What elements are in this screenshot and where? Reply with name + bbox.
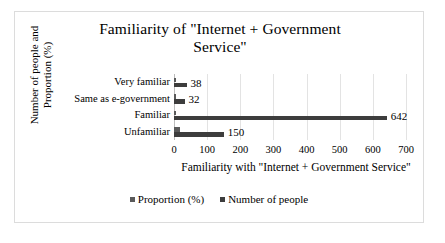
legend-swatch-icon	[130, 197, 135, 202]
x-tick-label: 300	[266, 143, 282, 157]
bar-proportion	[174, 127, 180, 132]
chart-legend: Proportion (%)Number of people	[15, 192, 423, 206]
bar-proportion	[174, 111, 176, 116]
legend-swatch-icon	[220, 197, 225, 202]
chart-frame: Familiarity of "Internet + Government Se…	[14, 11, 424, 223]
chart-title: Familiarity of "Internet + Government Se…	[45, 20, 395, 56]
legend-item[interactable]: Number of people	[220, 192, 308, 206]
bar-number-of-people	[174, 132, 224, 137]
legend-item[interactable]: Proportion (%)	[130, 192, 204, 206]
bar-number-of-people	[174, 83, 187, 88]
x-tick-label: 400	[299, 143, 315, 157]
y-axis-title-line-1: Number of people and	[28, 5, 41, 145]
bar-number-of-people	[174, 99, 185, 104]
bar-number-of-people	[174, 116, 387, 121]
chart-title-line-1: Familiarity of "Internet + Government	[45, 20, 395, 38]
x-axis-tick-labels: 0100200300400500600700	[174, 143, 406, 157]
x-tick-label: 100	[199, 143, 215, 157]
bar-group: Unfamiliar150	[174, 124, 406, 141]
category-label: Same as e-government	[74, 92, 170, 106]
plot-area: Very familiar38Same as e-government32Fam…	[174, 74, 406, 140]
y-axis-title-line-2: Proportion (%)	[41, 5, 54, 145]
data-label: 38	[191, 76, 202, 90]
category-label: Familiar	[134, 108, 170, 122]
gridline-700	[406, 74, 407, 140]
bar-group: Same as e-government32	[174, 91, 406, 108]
bar-proportion	[174, 94, 176, 99]
data-label: 150	[228, 125, 245, 139]
x-tick-label: 700	[398, 143, 414, 157]
data-label: 642	[391, 109, 408, 123]
category-label: Unfamiliar	[124, 125, 170, 139]
x-tick-label: 500	[332, 143, 348, 157]
bar-group: Very familiar38	[174, 74, 406, 91]
data-label: 32	[189, 92, 200, 106]
chart-title-line-2: Service"	[45, 38, 395, 56]
x-axis-title: Familiarity with "Internet + Government …	[165, 160, 427, 174]
y-axis-title: Number of people and Proportion (%)	[28, 5, 58, 145]
x-tick-label: 0	[171, 143, 176, 157]
legend-label: Number of people	[228, 192, 308, 206]
category-label: Very familiar	[114, 75, 170, 89]
x-tick-label: 200	[232, 143, 248, 157]
bar-group: Familiar642	[174, 107, 406, 124]
bar-proportion	[174, 78, 176, 83]
x-tick-label: 600	[365, 143, 381, 157]
legend-label: Proportion (%)	[138, 192, 204, 206]
